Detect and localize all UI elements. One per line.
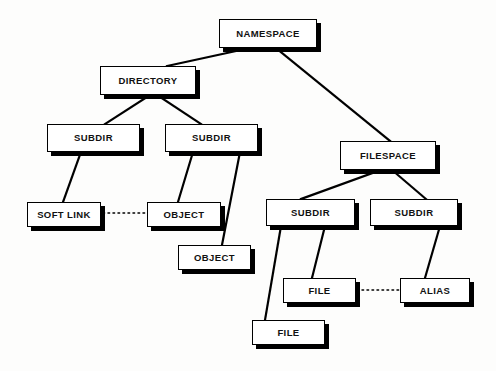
node-label-object-a: OBJECT: [164, 210, 205, 220]
edge-subdir-c-file-a: [312, 226, 325, 278]
node-label-filespace: FILESPACE: [360, 151, 416, 161]
edge-subdir-c-file-b: [265, 226, 281, 320]
node-label-file-a: FILE: [308, 286, 330, 296]
node-label-subdir-b: SUBDIR: [192, 133, 231, 143]
node-object-a[interactable]: OBJECT: [147, 202, 221, 227]
node-label-soft-link: SOFT LINK: [37, 210, 91, 220]
node-subdir-c[interactable]: SUBDIR: [266, 199, 355, 226]
node-label-object-b: OBJECT: [194, 253, 235, 263]
edge-directory-subdir-b: [157, 95, 201, 124]
edge-filespace-subdir-c: [301, 170, 381, 199]
node-label-subdir-c: SUBDIR: [291, 208, 330, 218]
node-namespace[interactable]: NAMESPACE: [219, 19, 317, 48]
node-label-alias: ALIAS: [420, 286, 451, 296]
node-file-b[interactable]: FILE: [252, 320, 325, 345]
edge-subdir-d-alias: [425, 226, 440, 278]
node-object-b[interactable]: OBJECT: [178, 245, 251, 270]
node-subdir-b[interactable]: SUBDIR: [165, 124, 258, 152]
edge-directory-subdir-a: [105, 95, 150, 124]
edge-subdir-b-object-a: [178, 152, 193, 202]
namespace-hierarchy-diagram: NAMESPACEDIRECTORYSUBDIRSUBDIRFILESPACES…: [0, 0, 496, 371]
node-filespace[interactable]: FILESPACE: [340, 141, 436, 170]
node-directory[interactable]: DIRECTORY: [100, 66, 196, 95]
edge-layer: [0, 0, 496, 371]
node-label-file-b: FILE: [277, 328, 299, 338]
edge-subdir-b-object-b: [222, 152, 240, 245]
node-label-subdir-a: SUBDIR: [74, 133, 113, 143]
node-alias[interactable]: ALIAS: [400, 278, 470, 303]
node-file-a[interactable]: FILE: [283, 278, 356, 303]
node-label-directory: DIRECTORY: [118, 76, 177, 86]
node-soft-link[interactable]: SOFT LINK: [27, 202, 101, 227]
edge-subdir-a-soft-link: [63, 152, 81, 202]
edge-namespace-directory: [167, 48, 250, 66]
edge-filespace-subdir-d: [392, 170, 426, 199]
node-subdir-d[interactable]: SUBDIR: [370, 199, 458, 226]
node-subdir-a[interactable]: SUBDIR: [47, 124, 140, 152]
node-label-subdir-d: SUBDIR: [395, 208, 434, 218]
edge-namespace-filespace: [276, 48, 390, 141]
node-label-namespace: NAMESPACE: [236, 29, 300, 39]
